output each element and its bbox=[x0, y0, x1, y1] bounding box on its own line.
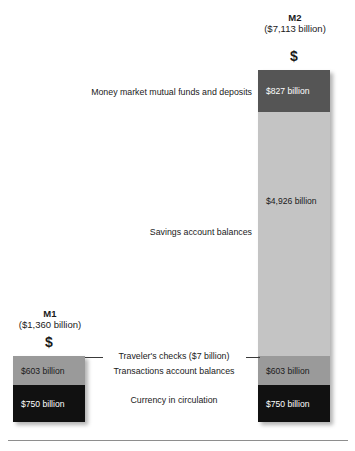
m2-segment-money-market: $827 billion bbox=[258, 70, 330, 112]
m2-segment-savings: $4,926 billion bbox=[258, 112, 330, 356]
m2-aggregate-name: M2 bbox=[248, 12, 342, 23]
bottom-divider bbox=[8, 440, 348, 441]
m1-dollar-sign-icon: $ bbox=[13, 335, 85, 349]
m2-currency-value: $750 billion bbox=[258, 399, 309, 409]
m2-segment-currency: $750 billion bbox=[258, 385, 330, 422]
label-currency: Currency in circulation bbox=[92, 396, 256, 406]
m1-stacked-bar: $603 billion $750 billion bbox=[13, 356, 85, 422]
m2-segment-transactions: $603 billion bbox=[258, 356, 330, 385]
m2-stacked-bar: $827 billion $4,926 billion $603 billion… bbox=[258, 70, 330, 422]
m1-transactions-value: $603 billion bbox=[13, 366, 64, 376]
m1-aggregate-name: M1 bbox=[2, 308, 98, 319]
m2-savings-value: $4,926 billion bbox=[258, 196, 317, 206]
m1-currency-value: $750 billion bbox=[13, 399, 64, 409]
m2-money-market-value: $827 billion bbox=[258, 86, 309, 96]
m2-column-header: M2 ($7,113 billion) bbox=[248, 12, 342, 34]
m1-column-header: M1 ($1,360 billion) bbox=[2, 308, 98, 330]
m2-transactions-value: $603 billion bbox=[258, 366, 309, 376]
m1-segment-transactions: $603 billion bbox=[13, 356, 85, 385]
m1-aggregate-total: ($1,360 billion) bbox=[2, 319, 98, 330]
money-aggregates-figure: M2 ($7,113 billion) $ $827 billion $4,92… bbox=[0, 0, 355, 451]
m2-aggregate-total: ($7,113 billion) bbox=[248, 23, 342, 34]
label-travelers-checks: Traveler's checks ($7 billion) bbox=[100, 352, 248, 362]
label-transactions: Transactions account balances bbox=[92, 367, 256, 377]
m2-dollar-sign-icon: $ bbox=[258, 49, 330, 63]
label-savings: Savings account balances bbox=[92, 228, 252, 238]
label-money-market: Money market mutual funds and deposits bbox=[40, 88, 252, 98]
leader-line-right bbox=[246, 357, 260, 358]
leader-line-left bbox=[85, 357, 103, 358]
m1-segment-currency: $750 billion bbox=[13, 385, 85, 422]
